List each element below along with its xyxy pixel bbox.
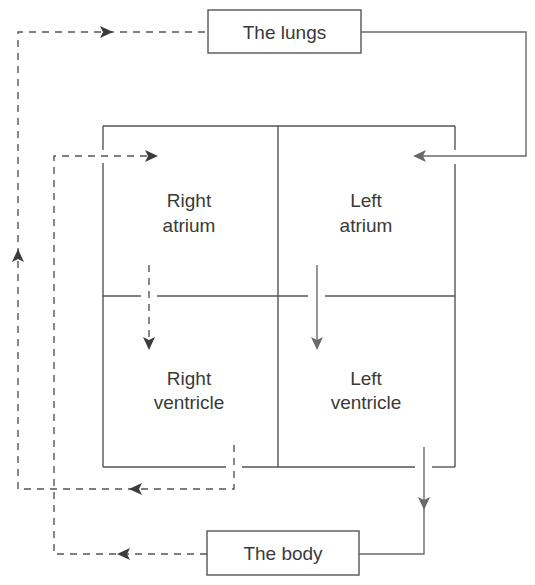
arrow-right-icon [100,26,113,38]
right-atrium-label-line1: Right [167,190,212,211]
left-atrium-label-line1: Left [350,190,382,211]
left-atrium-label-line2: atrium [340,215,393,236]
arrow-down-icon [143,337,155,350]
right-atrium-label-line2: atrium [163,215,216,236]
lungs-node: The lungs [208,10,361,53]
arrow-up-icon [12,249,24,262]
left-ventricle-label-line1: Left [350,368,382,389]
oxygenated-flow [317,32,526,554]
circulation-diagram: The lungs The body Right atrium Left atr… [0,0,535,585]
right-ventricle-label-line1: Right [167,368,212,389]
deoxygenated-flow [18,32,234,554]
body-node: The body [207,531,359,575]
left-ventricle-label-line2: ventricle [331,392,402,413]
body-label: The body [243,543,323,564]
heart-chambers [103,126,455,467]
lungs-label: The lungs [243,22,326,43]
right-ventricle-label-line2: ventricle [154,392,225,413]
deoxygenated-arrowheads [12,26,158,560]
arrow-left-icon [129,483,142,495]
